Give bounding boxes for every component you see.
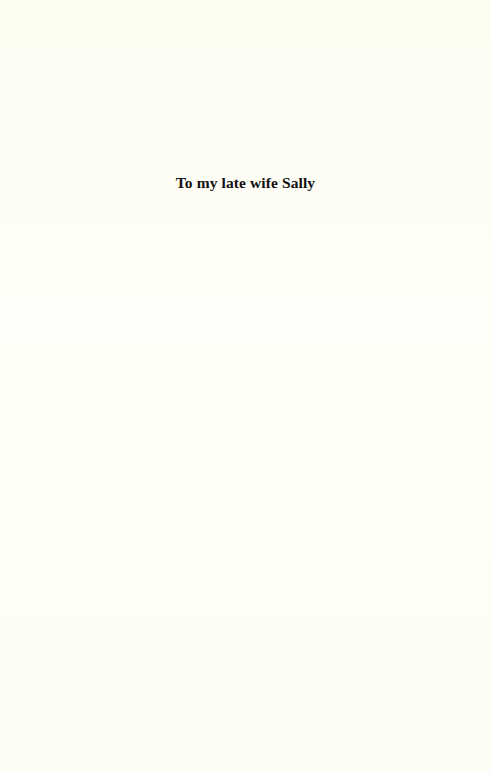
book-page: To my late wife Sally <box>0 0 491 773</box>
dedication-text: To my late wife Sally <box>0 174 491 192</box>
